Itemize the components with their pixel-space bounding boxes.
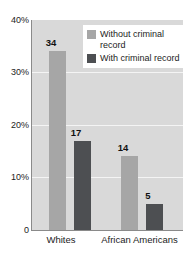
bar-chart: 40% 30% 20% 10% 0 34 17 14 5 Whites Afri… xyxy=(0,0,190,257)
bar-whites-without-criminal-record xyxy=(49,51,66,230)
y-axis-tick-30: 30% xyxy=(1,68,29,77)
legend-label-with-criminal-record: With criminal record xyxy=(100,53,180,64)
legend-swatch-icon-with-criminal-record xyxy=(87,54,96,63)
legend-swatch-icon-without-criminal-record xyxy=(87,30,96,39)
x-axis-label-african-americans: African Americans xyxy=(92,234,187,245)
legend: Without criminal record With criminal re… xyxy=(83,25,183,68)
y-axis-tick-40: 40% xyxy=(1,16,29,25)
bar-african-americans-without-criminal-record xyxy=(121,156,138,230)
bar-whites-with-criminal-record xyxy=(74,141,91,230)
legend-item-without-criminal-record: Without criminal record xyxy=(87,29,180,50)
y-axis-tick-labels: 40% 30% 20% 10% 0 xyxy=(0,0,29,257)
y-axis-tick-0: 0 xyxy=(1,226,29,235)
bar-value-whites-without-criminal-record: 34 xyxy=(40,38,62,48)
y-axis-line xyxy=(31,20,32,231)
x-axis-label-whites: Whites xyxy=(31,234,91,245)
bar-value-whites-with-criminal-record: 17 xyxy=(65,128,87,138)
bar-african-americans-with-criminal-record xyxy=(146,204,163,230)
y-axis-tick-20: 20% xyxy=(1,121,29,130)
bar-value-african-americans-without-criminal-record: 14 xyxy=(112,143,134,153)
x-axis-line xyxy=(32,230,183,231)
y-axis-tick-10: 10% xyxy=(1,173,29,182)
legend-item-with-criminal-record: With criminal record xyxy=(87,53,180,64)
bar-value-african-americans-with-criminal-record: 5 xyxy=(137,191,159,201)
legend-label-without-criminal-record: Without criminal record xyxy=(100,29,180,50)
